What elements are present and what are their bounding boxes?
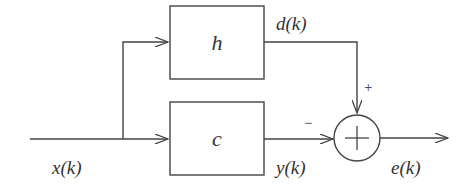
block-diagram: h c + − x(k) d(k) y(k) e(k)	[0, 0, 469, 189]
input-label: x(k)	[51, 157, 82, 179]
minus-sign: −	[304, 115, 312, 131]
branch-to-h-line	[123, 42, 168, 139]
plus-sign: +	[364, 79, 372, 95]
block-c-label: c	[212, 126, 222, 151]
desired-signal-line	[264, 42, 357, 113]
output-label: y(k)	[274, 157, 306, 179]
error-label: e(k)	[391, 157, 421, 179]
block-h-label: h	[212, 30, 223, 55]
desired-label: d(k)	[276, 13, 307, 35]
